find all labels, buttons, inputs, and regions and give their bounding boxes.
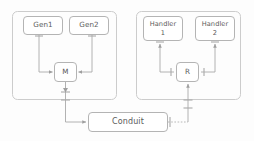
edge-gen2-to-m (79, 35, 97, 72)
edge-gen1-to-m (35, 35, 53, 72)
edge-m-to-conduit (61, 82, 86, 122)
node-gen2[interactable] (70, 17, 109, 35)
node-r[interactable] (177, 63, 199, 82)
node-handler1[interactable] (144, 17, 183, 41)
diagram-canvas: Gen1 Gen2 M Handler 1 Handler 2 R Condui… (0, 0, 254, 141)
node-conduit[interactable] (89, 113, 168, 132)
edge-r-to-handler2 (201, 42, 219, 76)
node-handler2[interactable] (196, 17, 235, 41)
node-gen1[interactable] (24, 17, 63, 35)
node-m[interactable] (55, 63, 77, 82)
edge-r-to-handler1 (156, 42, 174, 76)
diagram-graphics (0, 0, 254, 141)
edge-conduit-to-r (168, 84, 193, 127)
